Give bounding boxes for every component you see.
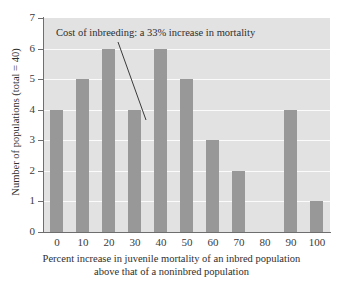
- x-axis-tick-label: 60: [200, 236, 226, 248]
- x-axis-tick-labels: 0 10 20 30 40 50 60 70 80 90 100: [44, 236, 330, 250]
- y-axis-tick: [38, 110, 44, 111]
- x-axis-title: Percent increase in juvenile mortality o…: [6, 252, 337, 278]
- plot-area: [44, 18, 330, 232]
- x-axis-tick-label: 30: [122, 236, 148, 248]
- bar: [206, 140, 219, 232]
- x-axis-tick-label: 10: [70, 236, 96, 248]
- y-axis-tick: [38, 18, 44, 19]
- annotation-leader-line: [108, 38, 156, 124]
- x-axis-tick-label: 70: [226, 236, 252, 248]
- x-axis-tick-label: 100: [304, 236, 330, 248]
- y-axis-title: Number of populations (total = 40): [10, 14, 22, 230]
- y-axis-tick: [38, 79, 44, 80]
- bar: [76, 79, 89, 232]
- bar: [128, 110, 141, 232]
- gridline: [44, 49, 330, 50]
- y-axis-tick: [38, 171, 44, 172]
- x-axis-title-line-1: Percent increase in juvenile mortality o…: [6, 252, 337, 265]
- bar: [284, 110, 297, 232]
- x-axis-title-line-2: above that of a noninbred population: [6, 265, 337, 278]
- x-axis-tick-label: 90: [278, 236, 304, 248]
- x-axis-tick-label: 20: [96, 236, 122, 248]
- bar: [50, 110, 63, 232]
- bar-chart-figure: 7 6 5 4 3 2 1 0 0 10 20 30 40 50 60 70 8…: [0, 0, 343, 288]
- bar: [232, 171, 245, 232]
- x-axis-tick-label: 40: [148, 236, 174, 248]
- y-axis-tick: [38, 49, 44, 50]
- y-axis-tick: [38, 232, 44, 233]
- x-axis-tick-label: 80: [252, 236, 278, 248]
- x-axis-tick-label: 50: [174, 236, 200, 248]
- x-axis-line: [43, 232, 331, 233]
- bar: [180, 79, 193, 232]
- y-axis-tick: [38, 201, 44, 202]
- annotation-label: Cost of inbreeding: a 33% increase in mo…: [56, 27, 288, 39]
- y-axis-tick: [38, 140, 44, 141]
- bar: [310, 201, 323, 232]
- x-axis-tick-label: 0: [44, 236, 70, 248]
